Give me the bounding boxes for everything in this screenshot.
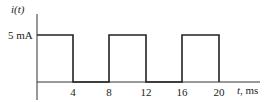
square-wave-plot	[0, 0, 271, 102]
y-axis-label: i(t)	[11, 4, 24, 15]
x-tick-16: 16	[177, 87, 188, 98]
y-tick-5ma: 5 mA	[8, 30, 33, 41]
x-axis-label: t, ms	[237, 85, 258, 96]
x-tick-12: 12	[141, 87, 152, 98]
x-tick-8: 8	[106, 87, 112, 98]
current-waveform	[37, 35, 219, 82]
x-tick-4: 4	[70, 87, 76, 98]
x-tick-20: 20	[214, 87, 225, 98]
